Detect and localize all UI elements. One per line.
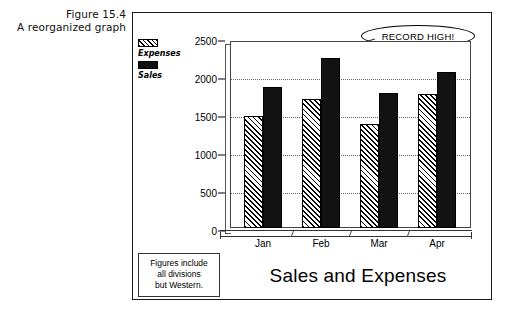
y-axis-labels: 0 500 1000 1500 2000 2500 [187,41,217,231]
x-axis-line [220,230,472,231]
figure-caption-line-1: Figure 15.4 [0,8,126,21]
bar-chart: 0 500 1000 1500 2000 2500 [187,41,479,256]
figure-caption-line-2: A reorganized graph [0,21,126,34]
bar-group-mar [356,41,406,228]
bar-jan-sales [263,87,282,228]
bar-series-layer [230,41,471,228]
x-axis-end-left [220,232,221,239]
y-tick-label-0: 0 [211,226,217,237]
bar-feb-sales [321,58,340,228]
figure-frame: Expenses Sales RECORD HIGH! 0 500 1000 1… [132,12,492,300]
note-line-2: all divisions [142,269,216,280]
bar-apr-expenses [418,94,437,228]
y-tick-label-1000: 1000 [195,150,217,161]
note-line-3: but Western. [142,280,216,291]
x-axis-labels: Jan Feb Mar Apr [225,238,471,254]
y-tick-label-2000: 2000 [195,74,217,85]
note-box: Figures include all divisions but Wester… [138,253,220,297]
x-axis-line-lower [220,236,472,237]
x-tick-label-mar: Mar [370,238,387,249]
x-tick-label-feb: Feb [312,238,329,249]
y-tick-mark-1000 [218,155,225,156]
figure-caption: Figure 15.4 A reorganized graph [0,8,126,34]
bar-jan-expenses [244,116,263,228]
note-line-1: Figures include [142,258,216,269]
x-tick-label-apr: Apr [429,238,445,249]
solid-swatch-icon [138,61,158,69]
legend-label-expenses: Expenses [138,48,190,59]
x-axis-end-right [471,232,472,239]
y-tick-label-500: 500 [200,188,217,199]
y-tick-mark-1500 [218,117,225,118]
legend-label-sales: Sales [138,70,190,81]
y-tick-label-1500: 1500 [195,112,217,123]
bar-group-feb [298,41,348,228]
y-tick-mark-2000 [218,79,225,80]
bar-group-apr [414,41,464,228]
plot-area-wrapper [225,41,471,231]
x-tick-label-jan: Jan [255,238,271,249]
bar-mar-expenses [360,124,379,228]
bar-mar-sales [379,93,398,228]
y-tick-mark-2500 [218,41,225,42]
chart-legend: Expenses Sales [138,39,190,83]
legend-item-expenses: Expenses [138,39,190,59]
chart-title: Sales and Expenses [229,265,487,287]
y-tick-label-2500: 2500 [195,36,217,47]
y-tick-mark-500 [218,193,225,194]
bar-feb-expenses [302,99,321,228]
legend-item-sales: Sales [138,61,190,81]
bar-group-jan [240,41,290,228]
hatch-swatch-icon [138,39,158,47]
bar-apr-sales [437,72,456,228]
